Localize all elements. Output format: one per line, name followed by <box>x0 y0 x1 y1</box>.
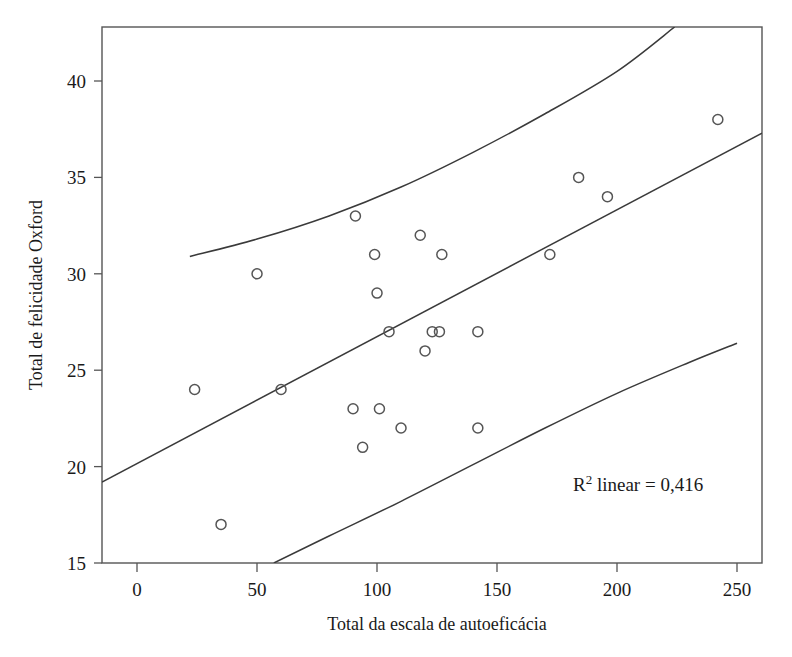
r-squared-text: R2 linear = 0,416 <box>573 472 703 495</box>
x-tick-label-2: 100 <box>363 579 392 600</box>
y-tick-label-0: 15 <box>67 553 86 574</box>
x-axis-title: Total da escala de autoeficácia <box>327 614 547 634</box>
x-tick-label-0: 0 <box>132 579 142 600</box>
x-tick-label-4: 200 <box>603 579 632 600</box>
scatter-plot-figure: 15 20 25 30 35 40 0 50 100 150 200 250 T… <box>0 0 792 657</box>
y-tick-label-5: 40 <box>67 71 86 92</box>
y-axis-title: Total de felicidade Oxford <box>26 200 46 390</box>
r-squared-annotation: R2 linear = 0,416 <box>573 472 703 495</box>
y-tick-label-4: 35 <box>67 167 86 188</box>
y-tick-label-3: 30 <box>67 264 86 285</box>
figure-background <box>0 0 792 657</box>
y-tick-label-2: 25 <box>67 360 86 381</box>
y-tick-label-1: 20 <box>67 457 86 478</box>
x-tick-label-3: 150 <box>483 579 512 600</box>
x-tick-label-5: 250 <box>723 579 752 600</box>
x-tick-label-1: 50 <box>248 579 267 600</box>
r-squared-suffix: linear = 0,416 <box>592 474 703 495</box>
r-squared-prefix: R <box>573 474 586 495</box>
